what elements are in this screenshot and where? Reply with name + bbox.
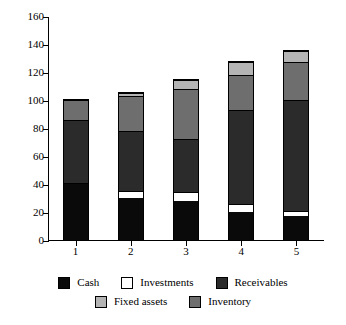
legend-item-receivables[interactable]: Receivables [216,276,288,289]
bar-segment-investments[interactable] [63,183,89,184]
legend-label: Inventory [208,295,251,308]
plot-area: 020406080100120140160 12345 [48,17,324,241]
legend-item-fixed-assets[interactable]: Fixed assets [95,295,167,308]
y-axis-tick-label: 100 [28,94,45,107]
bar-top-edge [283,50,309,51]
bar-segment-inventory[interactable] [118,96,144,131]
y-axis-tick: 120 [48,73,49,74]
bar-segment-investments[interactable] [283,211,309,217]
y-axis-tick-label: 60 [33,150,44,163]
bar-stack[interactable] [173,80,199,240]
bar-segment-receivables[interactable] [283,100,309,211]
legend-row: Fixed assetsInventory [0,295,346,308]
legend-label: Cash [77,276,99,289]
x-axis-tick-label: 3 [183,245,189,258]
bar-segment-receivables[interactable] [118,131,144,191]
y-axis-tick-label: 160 [28,10,45,23]
y-axis-tick: 100 [48,101,49,102]
x-axis-tick-label: 1 [73,245,79,258]
bar-segment-investments[interactable] [228,204,254,212]
y-axis-tick: 160 [48,17,49,18]
y-axis-tick: 20 [48,213,49,214]
y-axis-tick: 0 [48,241,49,242]
legend-label: Receivables [235,276,288,289]
bar-stack[interactable] [63,100,89,240]
bar-segment-cash[interactable] [118,198,144,240]
bar-top-edge [118,92,144,93]
bar-top-edge [228,61,254,62]
x-axis-tick-label: 2 [128,245,134,258]
bar-segment-fixed-assets[interactable] [283,51,309,62]
chart-legend: CashInvestmentsReceivablesFixed assetsIn… [0,276,346,314]
y-axis-tick-label: 140 [28,38,45,51]
legend-swatch-icon [189,296,201,308]
x-axis-tick-label: 5 [294,245,300,258]
bar-top-edge [173,79,199,80]
legend-item-inventory[interactable]: Inventory [189,295,251,308]
y-axis-tick: 60 [48,157,49,158]
bar-stack[interactable] [228,62,254,240]
y-axis-tick-label: 20 [33,206,44,219]
bar-segment-fixed-assets[interactable] [228,62,254,75]
bar-segment-cash[interactable] [228,212,254,240]
bar-segment-receivables[interactable] [228,110,254,204]
y-axis-tick-label: 120 [28,66,45,79]
x-axis-tick-label: 4 [238,245,244,258]
bar-top-edge [63,99,89,100]
stacked-bar-chart-figure: 020406080100120140160 12345 CashInvestme… [0,0,346,325]
bar-segment-investments[interactable] [173,192,199,200]
bar-segment-inventory[interactable] [63,100,89,120]
legend-label: Investments [140,276,193,289]
bar-segment-inventory[interactable] [228,75,254,110]
bar-segment-receivables[interactable] [173,139,199,192]
bar-segment-cash[interactable] [283,216,309,240]
bar-segment-inventory[interactable] [173,89,199,139]
bar-stack[interactable] [283,51,309,240]
bar-segment-investments[interactable] [118,191,144,198]
legend-row: CashInvestmentsReceivables [0,276,346,289]
bar-segment-cash[interactable] [173,201,199,240]
legend-swatch-icon [216,277,228,289]
legend-item-cash[interactable]: Cash [58,276,99,289]
bar-segment-receivables[interactable] [63,120,89,183]
bar-segment-inventory[interactable] [283,62,309,100]
y-axis-tick-label: 80 [33,122,44,135]
legend-swatch-icon [58,277,70,289]
bar-segment-cash[interactable] [63,184,89,240]
legend-swatch-icon [95,296,107,308]
y-axis-tick: 80 [48,129,49,130]
legend-swatch-icon [121,277,133,289]
y-axis-tick-label: 40 [33,178,44,191]
y-axis-tick: 40 [48,185,49,186]
legend-item-investments[interactable]: Investments [121,276,193,289]
legend-label: Fixed assets [114,295,167,308]
bar-segment-fixed-assets[interactable] [118,93,144,96]
bar-stack[interactable] [118,93,144,240]
bar-segment-fixed-assets[interactable] [173,80,199,88]
y-axis-tick-label: 0 [39,234,45,247]
y-axis-tick: 140 [48,45,49,46]
